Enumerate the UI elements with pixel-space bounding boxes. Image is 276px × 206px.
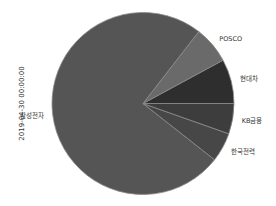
pie-slice-label: 현대차	[240, 74, 258, 83]
pie-wedges	[52, 12, 234, 194]
pie-slice-label: KB금융	[242, 117, 263, 125]
pie-chart: 현대차POSCO삼성전자한국전력KB금융 2019-04-30 00:00:00	[0, 0, 276, 206]
pie-slice-label: POSCO	[219, 35, 242, 43]
pie-slice-label: 한국전력	[231, 147, 255, 156]
y-axis-label: 2019-04-30 00:00:00	[18, 66, 26, 140]
